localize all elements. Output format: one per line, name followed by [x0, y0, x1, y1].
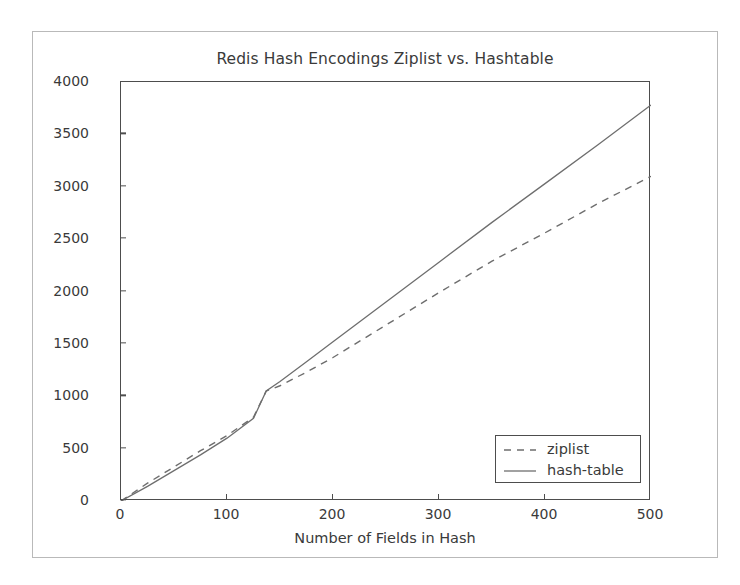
y-tick-label: 3500 [53, 125, 89, 141]
y-tick-label: 2000 [53, 283, 89, 299]
y-tick-mark [120, 499, 126, 500]
legend-label-ziplist: ziplist [547, 442, 589, 457]
x-tick-label: 400 [531, 506, 558, 522]
y-tick-label: 1000 [53, 387, 89, 403]
legend-label-hash-table: hash-table [547, 463, 624, 478]
y-tick-mark [120, 395, 126, 396]
x-tick-label: 100 [213, 506, 240, 522]
x-tick-mark [226, 494, 227, 500]
legend-item-hash-table[interactable]: hash-table [496, 460, 640, 481]
x-tick-label: 500 [637, 506, 664, 522]
x-tick-label: 300 [425, 506, 452, 522]
page-title: Redis Hash Encodings Ziplist vs. Hashtab… [120, 50, 650, 68]
y-tick-label: 0 [80, 492, 89, 508]
x-tick-label: 200 [319, 506, 346, 522]
x-tick-mark [438, 494, 439, 500]
y-tick-mark [120, 237, 126, 238]
y-tick-mark [120, 447, 126, 448]
legend-item-ziplist[interactable]: ziplist [496, 439, 640, 460]
y-tick-mark [120, 185, 126, 186]
y-tick-label: 2500 [53, 230, 89, 246]
y-tick-label: 4000 [53, 73, 89, 89]
x-tick-label: 0 [116, 506, 125, 522]
dashed-line-icon [503, 445, 537, 455]
solid-line-icon [503, 466, 537, 476]
x-tick-mark [544, 494, 545, 500]
y-tick-mark [120, 133, 126, 134]
y-tick-label: 1500 [53, 335, 89, 351]
legend: ziplist hash-table [495, 435, 641, 483]
y-tick-label: 3000 [53, 178, 89, 194]
x-axis-label: Number of Fields in Hash [120, 530, 650, 546]
y-tick-mark [120, 342, 126, 343]
x-tick-mark [332, 494, 333, 500]
y-tick-label: 500 [62, 440, 89, 456]
y-tick-mark [120, 290, 126, 291]
